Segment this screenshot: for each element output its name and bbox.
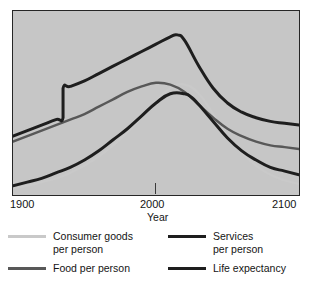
legend-swatch-food [8,267,46,270]
x-tick-label-2000: 2000 [140,198,164,211]
series-line [13,83,299,149]
legend-swatch-services [168,235,206,238]
chart-legend: Consumer goods per person Services per p… [0,228,323,286]
legend-item-life-expectancy: Life expectancy [168,262,286,275]
legend-label-food: Food per person [53,262,130,275]
x-axis-title: Year [147,211,168,223]
x-axis-tick-2000 [155,183,156,194]
legend-item-food: Food per person [8,262,130,275]
legend-swatch-life-expectancy [168,267,206,270]
legend-label-services: Services per person [213,230,263,255]
legend-label-life-expectancy: Life expectancy [213,262,286,275]
x-tick-label-2100: 2100 [272,198,296,211]
legend-label-consumer-goods: Consumer goods per person [53,230,133,255]
series-line [13,35,299,137]
plot-area [12,10,300,196]
x-tick-label-1900: 1900 [10,198,34,211]
series-line [13,93,299,186]
legend-swatch-consumer-goods [8,235,46,238]
chart-figure: 1900 2000 2100 Year Consumer goods per p… [0,0,323,288]
legend-item-consumer-goods: Consumer goods per person [8,230,133,255]
chart-lines [13,11,299,195]
legend-item-services: Services per person [168,230,263,255]
